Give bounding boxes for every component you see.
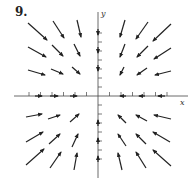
field-arrow	[48, 115, 60, 119]
field-arrow	[51, 69, 63, 74]
field-arrow	[137, 68, 147, 75]
field-arrow	[118, 153, 122, 170]
field-arrow	[154, 115, 171, 119]
field-arrow	[136, 134, 146, 144]
field-arrow	[120, 44, 125, 57]
field-arrow	[120, 20, 125, 37]
field-arrow	[70, 114, 79, 122]
field-arrow	[72, 134, 78, 147]
field-arrow	[155, 71, 171, 75]
field-arrow	[153, 150, 171, 166]
field-arrow	[118, 134, 126, 146]
field-arrow	[153, 24, 171, 41]
field-arrow	[74, 153, 77, 170]
field-arrow	[49, 134, 60, 144]
field-arrow	[137, 46, 148, 57]
field-arrow	[154, 48, 171, 59]
field-arrow	[118, 115, 126, 123]
field-arrow	[53, 21, 64, 38]
field-arrows	[26, 20, 171, 170]
field-arrow	[50, 152, 61, 168]
field-arrow	[26, 114, 42, 117]
field-arrow	[28, 70, 45, 75]
field-arrow	[136, 152, 146, 168]
vector-field-figure: 9. y x	[0, 0, 193, 182]
field-arrow	[26, 132, 43, 142]
field-arrow	[52, 45, 63, 56]
field-arrow	[74, 44, 80, 56]
field-arrow	[28, 47, 46, 57]
field-arrow	[153, 132, 170, 142]
field-arrow	[77, 20, 81, 37]
field-arrow	[136, 22, 148, 39]
field-arrow	[136, 115, 147, 121]
field-arrow	[72, 67, 80, 74]
field-arrow	[26, 149, 44, 165]
field-arrow	[28, 23, 47, 40]
field-arrow	[120, 67, 124, 75]
vector-field-plot	[0, 0, 193, 182]
